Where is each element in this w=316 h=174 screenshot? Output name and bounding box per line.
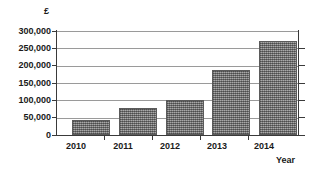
x-tick-label-2010: 2010 [53, 141, 99, 151]
x-tick-label-2013: 2013 [194, 141, 240, 151]
y-axis-line-right [298, 30, 299, 136]
x-axis-title: Year [276, 155, 295, 165]
bar-chart: £ 300,000 250,000 200,000 150,000 100,00… [0, 0, 316, 174]
y-tick-label: 150,000 [1, 79, 51, 88]
x-tick-label-2014: 2014 [241, 141, 287, 151]
y-axis-tick-right [299, 48, 305, 49]
x-axis-tick [152, 136, 153, 140]
gridline [56, 31, 299, 32]
y-tick-label: 0 [1, 131, 51, 140]
y-tick-label: 200,000 [1, 61, 51, 70]
y-axis-line [56, 30, 57, 136]
x-axis-tick [104, 136, 105, 140]
x-axis-tick [200, 136, 201, 140]
y-tick-label: 250,000 [1, 44, 51, 53]
x-axis-tick [248, 136, 249, 140]
y-axis-tick-right [299, 65, 305, 66]
bar-2013 [212, 70, 250, 135]
y-tick-label: 100,000 [1, 96, 51, 105]
bar-2010 [72, 120, 110, 135]
y-axis-tick-right [299, 117, 305, 118]
bar-2012 [166, 100, 204, 135]
y-axis-tick-right [299, 83, 305, 84]
bar-2014 [259, 41, 297, 135]
y-axis-tick-right [299, 100, 305, 101]
y-tick-label: 300,000 [1, 27, 51, 36]
y-axis-tick-right [299, 135, 305, 136]
bar-2011 [119, 108, 157, 135]
x-axis-line [56, 135, 299, 136]
y-tick-label: 50,000 [1, 113, 51, 122]
plot-area [56, 31, 299, 135]
y-axis-tick-labels: 300,000 250,000 200,000 150,000 100,000 … [0, 0, 51, 174]
x-tick-label-2012: 2012 [147, 141, 193, 151]
x-tick-label-2011: 2011 [100, 141, 146, 151]
